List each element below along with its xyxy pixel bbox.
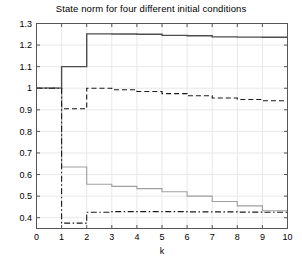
x-tick-label: 7 [210, 232, 215, 242]
plot-area: 0123456789100.40.50.60.70.80.911.11.21.3… [0, 0, 302, 262]
y-tick-label: 0.6 [19, 170, 32, 180]
x-tick-label: 5 [159, 232, 164, 242]
y-tick-label: 0.7 [19, 148, 32, 158]
y-tick-label: 0.5 [19, 191, 32, 201]
chart-figure: State norm for four different initial co… [0, 0, 302, 262]
x-tick-label: 2 [84, 232, 89, 242]
y-tick-label: 1.1 [19, 62, 32, 72]
x-tick-label: 3 [109, 232, 114, 242]
x-tick-label: 0 [34, 232, 39, 242]
x-tick-label: 8 [235, 232, 240, 242]
grid-lines [37, 24, 288, 229]
tick-labels: 0123456789100.40.50.60.70.80.911.11.21.3 [19, 19, 292, 242]
x-tick-label: 6 [185, 232, 190, 242]
x-tick-label: 9 [260, 232, 265, 242]
x-axis-label: k [160, 246, 165, 256]
x-tick-label: 1 [59, 232, 64, 242]
x-tick-label: 4 [134, 232, 139, 242]
y-tick-label: 0.8 [19, 127, 32, 137]
y-tick-label: 1.3 [19, 19, 32, 29]
y-tick-label: 1.2 [19, 40, 32, 50]
y-tick-label: 0.9 [19, 105, 32, 115]
y-tick-label: 1 [27, 83, 32, 93]
y-tick-label: 0.4 [19, 213, 32, 223]
x-tick-label: 10 [282, 232, 292, 242]
